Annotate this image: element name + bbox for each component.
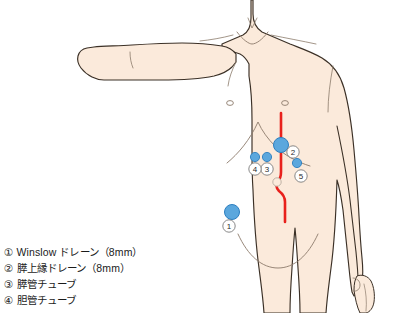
legend-marker-1: ① bbox=[4, 246, 14, 258]
legend-marker-2: ② bbox=[4, 262, 14, 274]
legend-label-1: Winslow ドレーン（8mm） bbox=[17, 246, 143, 258]
legend-label-4: 胆管チューブ bbox=[17, 294, 77, 306]
hand-fingers bbox=[354, 275, 374, 313]
nipple-left bbox=[227, 101, 234, 106]
navel bbox=[273, 178, 281, 186]
legend-item-1: ① Winslow ドレーン（8mm） bbox=[4, 245, 234, 260]
extended-arm bbox=[78, 43, 236, 80]
legend-item-4: ④ 胆管チューブ bbox=[4, 293, 234, 308]
callout-label-3: 3 bbox=[265, 165, 270, 174]
drain-marker-1[interactable]: 1 bbox=[223, 205, 240, 233]
legend-marker-3: ③ bbox=[4, 278, 14, 290]
drain-dot-1[interactable] bbox=[225, 205, 240, 220]
drain-dot-3[interactable] bbox=[262, 152, 271, 161]
callout-label-2: 2 bbox=[291, 148, 296, 157]
clavicle-left bbox=[200, 35, 233, 41]
legend-label-3: 膵管チューブ bbox=[17, 278, 77, 290]
drain-dot-5[interactable] bbox=[292, 158, 301, 167]
drain-dot-2[interactable] bbox=[274, 138, 289, 153]
callout-label-4: 4 bbox=[253, 165, 258, 174]
callout-label-1: 1 bbox=[227, 222, 232, 231]
legend-marker-4: ④ bbox=[4, 294, 14, 306]
drain-dot-4[interactable] bbox=[250, 152, 259, 161]
legend-item-3: ③ 膵管チューブ bbox=[4, 277, 234, 292]
callout-label-5: 5 bbox=[299, 172, 304, 181]
legend-item-2: ② 膵上縁ドレーン（8mm） bbox=[4, 261, 234, 276]
legend-label-2: 膵上縁ドレーン（8mm） bbox=[17, 262, 131, 274]
legend: ① Winslow ドレーン（8mm） ② 膵上縁ドレーン（8mm） ③ 膵管チ… bbox=[4, 245, 234, 308]
